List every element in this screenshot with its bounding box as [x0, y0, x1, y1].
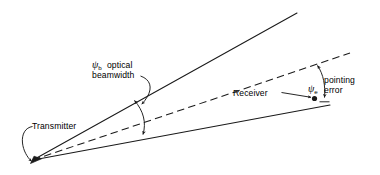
receiver-point-marker [312, 96, 317, 101]
pointing-error-label: pointing error [324, 76, 355, 95]
receiver-leader-line [282, 93, 312, 98]
pointing-error-subscript: e [314, 88, 318, 95]
pointing-error-symbol-wrap: ψe [308, 78, 318, 96]
beamwidth-label-line1: optical [107, 60, 133, 70]
boresight-dashed-line [33, 53, 350, 160]
beamwidth-angle-arc [135, 101, 145, 135]
beamwidth-symbol: ψb [92, 59, 102, 70]
receiver-label: Receiver [233, 89, 268, 99]
beamwidth-label: ψb optical beamwidth [92, 59, 134, 80]
diagram-canvas: ψb optical beamwidth ψe pointing error R… [0, 0, 380, 175]
pointing-error-label-line2: error [324, 86, 355, 96]
beam-geometry-svg [0, 0, 380, 175]
beamwidth-subscript: b [98, 64, 102, 71]
beam-upper-edge-line [33, 13, 297, 160]
pointing-error-symbol: ψe [308, 83, 318, 94]
transmitter-label: Transmitter [32, 122, 76, 132]
beamwidth-label-line2: beamwidth [92, 71, 134, 81]
beamwidth-leader-line [141, 76, 151, 104]
transmitter-leader-line [22, 127, 32, 162]
beam-lower-edge-line [33, 105, 330, 160]
